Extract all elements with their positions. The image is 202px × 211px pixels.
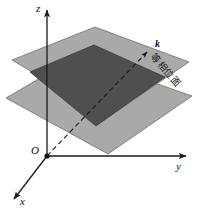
origin-label: O	[31, 144, 39, 156]
x-axis-label: x	[19, 195, 25, 207]
figure-container: z y x O k 等相位面	[0, 0, 202, 211]
physics-diagram: z y x O k 等相位面	[0, 0, 202, 211]
y-axis-label: y	[175, 160, 181, 172]
z-axis-label: z	[35, 2, 41, 14]
k-vector-label: k	[155, 38, 160, 49]
